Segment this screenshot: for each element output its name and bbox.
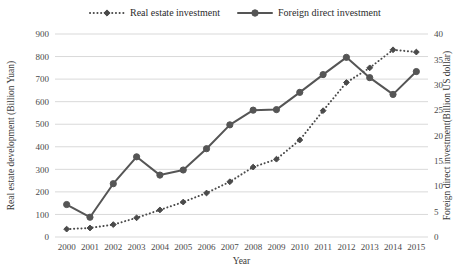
data-point-marker — [180, 199, 186, 205]
y-axis-title: Real estate development (Billion Yuan) — [6, 61, 17, 211]
data-point-marker — [64, 201, 70, 207]
data-point-marker — [297, 89, 303, 95]
data-point-marker — [413, 68, 419, 74]
series-line-foreign-direct-investment — [67, 57, 417, 217]
x-axis-tick-label: 2005 — [174, 242, 193, 252]
x-axis-tick-label: 2014 — [384, 242, 403, 252]
y-axis-left-tick-label: 400 — [36, 142, 50, 152]
data-point-marker — [157, 172, 163, 178]
y-axis-left-tick-label: 700 — [36, 74, 50, 84]
x-axis-tick-label: 2012 — [337, 242, 355, 252]
legend-marker — [252, 10, 258, 16]
line-chart: 0100200300400500600700800900051015202530… — [0, 0, 461, 278]
x-axis-tick-label: 2011 — [314, 242, 332, 252]
y-axis-right-tick-label: 0 — [434, 232, 439, 242]
data-point-marker — [367, 75, 373, 81]
x-axis-tick-label: 2008 — [244, 242, 263, 252]
data-point-marker — [180, 167, 186, 173]
legend-item-foreign-direct-investment[interactable]: Foreign direct investment — [238, 7, 381, 18]
x-axis-tick-label: 2007 — [221, 242, 240, 252]
data-point-marker — [87, 214, 93, 220]
x-axis-tick-label: 2004 — [151, 242, 170, 252]
y-axis-left-tick-label: 800 — [36, 52, 50, 62]
x-axis-tick-label: 2015 — [407, 242, 426, 252]
data-point-marker — [390, 91, 396, 97]
x-axis-tick-label: 2010 — [291, 242, 310, 252]
x-axis-ticks: 2000200120022003200420052006200720082009… — [58, 242, 426, 252]
y2-axis-title: Foreign direct investment(Billion US dol… — [442, 51, 453, 220]
data-point-marker — [133, 154, 139, 160]
y-axis-left-tick-label: 300 — [36, 165, 50, 175]
data-point-marker — [343, 54, 349, 60]
data-point-marker — [134, 215, 140, 221]
data-point-marker — [273, 107, 279, 113]
x-axis-tick-label: 2001 — [81, 242, 99, 252]
y-axis-right-tick-label: 40 — [434, 29, 444, 39]
y-axis-left-tick-label: 900 — [36, 29, 50, 39]
legend-item-real-estate-investment[interactable]: Real estate investment — [90, 7, 220, 18]
x-axis-title: Year — [233, 256, 251, 266]
x-axis-tick-label: 2000 — [58, 242, 77, 252]
legend-label: Foreign direct investment — [278, 7, 381, 18]
y-axis-left-tick-label: 500 — [36, 119, 50, 129]
x-axis-tick-label: 2013 — [361, 242, 380, 252]
y-axis-right-tick-label: 5 — [434, 207, 439, 217]
data-point-marker — [227, 122, 233, 128]
data-point-marker — [110, 181, 116, 187]
data-point-marker — [64, 226, 70, 232]
data-point-marker — [87, 225, 93, 231]
data-point-marker — [157, 207, 163, 213]
y-axis-left-ticks: 0100200300400500600700800900 — [36, 29, 50, 242]
legend: Real estate investmentForeign direct inv… — [90, 7, 381, 18]
data-point-marker — [250, 107, 256, 113]
data-point-marker — [413, 49, 419, 55]
data-point-marker — [203, 146, 209, 152]
gridlines — [55, 34, 428, 237]
y-axis-left-tick-label: 0 — [45, 232, 50, 242]
x-axis-tick-label: 2006 — [198, 242, 217, 252]
y-axis-left-tick-label: 600 — [36, 97, 50, 107]
legend-label: Real estate investment — [130, 7, 220, 18]
y-axis-left-tick-label: 100 — [36, 210, 50, 220]
y-axis-left-tick-label: 200 — [36, 187, 50, 197]
x-axis-tick-label: 2003 — [128, 242, 147, 252]
data-point-marker — [320, 72, 326, 78]
x-axis-tick-label: 2002 — [104, 242, 122, 252]
chart-container: 0100200300400500600700800900051015202530… — [0, 0, 461, 278]
data-point-marker — [110, 222, 116, 228]
legend-marker — [104, 10, 110, 16]
x-axis-tick-label: 2009 — [267, 242, 286, 252]
series-line-real-estate-investment — [67, 50, 417, 229]
